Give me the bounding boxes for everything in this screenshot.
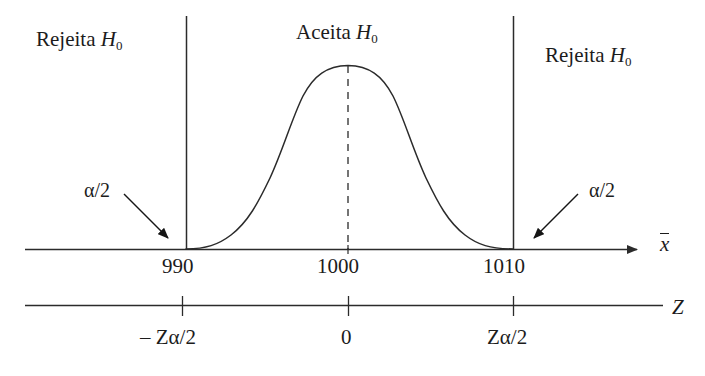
region-label-left-subscript: 0 <box>116 38 123 53</box>
normal-curve <box>186 66 513 250</box>
region-label-center-symbol: H <box>356 20 371 44</box>
region-label-left: Rejeita H0 <box>36 29 122 52</box>
region-label-left-text: Rejeita <box>36 27 95 51</box>
figure-caption <box>0 362 705 374</box>
alpha-label-right: α/2 <box>589 180 615 200</box>
region-label-right-text: Rejeita <box>545 43 604 67</box>
region-label-right: Rejeita H0 <box>545 45 631 68</box>
z-tick-label-negative: – Zα/2 <box>140 327 196 348</box>
x-tick-label-1010: 1010 <box>483 256 525 277</box>
region-label-right-subscript: 0 <box>625 54 632 69</box>
alpha-label-left: α/2 <box>84 180 110 200</box>
z-tick-label-zero: 0 <box>341 327 352 348</box>
region-label-center-text: Aceita <box>296 20 351 44</box>
region-label-center-subscript: 0 <box>371 31 378 46</box>
x-bar-symbol: x <box>660 234 669 255</box>
z-axis-name: Z <box>672 297 684 318</box>
x-tick-label-990: 990 <box>162 256 194 277</box>
x-tick-label-1000: 1000 <box>317 256 359 277</box>
region-label-right-symbol: H <box>610 43 625 67</box>
x-axis-name: x <box>660 234 669 255</box>
region-label-left-symbol: H <box>101 27 116 51</box>
alpha-arrow-left <box>124 194 168 238</box>
hypothesis-test-diagram: Rejeita H0 Aceita H0 Rejeita H0 α/2 α/2 … <box>0 0 705 376</box>
region-label-center: Aceita H0 <box>296 22 378 45</box>
alpha-arrow-right <box>534 194 578 238</box>
z-tick-label-positive: Zα/2 <box>487 327 527 348</box>
